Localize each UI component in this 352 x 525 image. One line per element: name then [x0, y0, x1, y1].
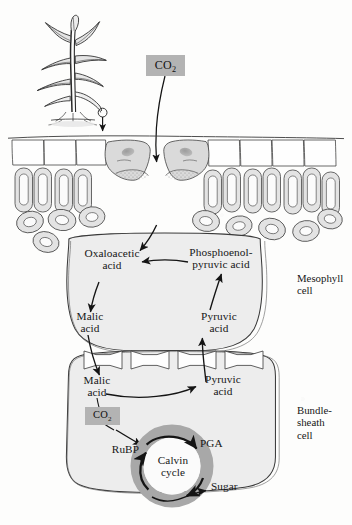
label-phosphoenolpyruvic-acid: Phosphoenol- pyruvic acid — [175, 247, 267, 270]
co2-atmospheric-label: CO2 — [146, 55, 185, 76]
palisade-cells-left — [15, 168, 92, 213]
label-bundle-sheath-cell: Bundle- sheath cell — [297, 404, 351, 441]
label-pyruvic-acid-bundle: Pyruvic acid — [194, 374, 252, 397]
label-rubp: RuBP — [103, 444, 139, 456]
figure-canvas: CO2 CO2 Oxaloacetic acid Phosphoenol- py… — [0, 0, 352, 525]
label-oxaloacetic-acid: Oxaloacetic acid — [71, 248, 153, 271]
label-sugar: Sugar — [211, 481, 255, 493]
co2-bundle-sheath-label: CO2 — [85, 407, 120, 425]
palisade-cells-right — [204, 168, 340, 216]
label-pga: PGA — [200, 438, 232, 450]
label-mesophyll-cell: Mesophyll cell — [297, 272, 351, 297]
label-calvin-cycle: Calvin cycle — [145, 455, 201, 478]
label-malic-acid-bundle: Malic acid — [69, 375, 125, 398]
label-malic-acid-mesophyll: Malic acid — [62, 311, 118, 334]
label-pyruvic-acid-mesophyll: Pyruvic acid — [190, 311, 248, 334]
corn-plant-illustration — [37, 15, 107, 127]
